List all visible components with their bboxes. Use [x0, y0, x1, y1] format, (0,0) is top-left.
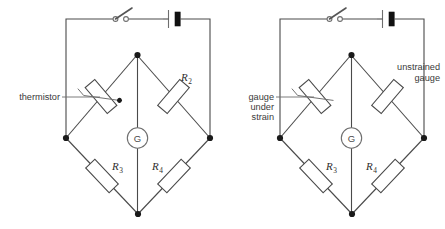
- battery-short-plate: [175, 12, 180, 26]
- gauge-under-strain-annotation-line2: under: [251, 102, 275, 112]
- resistor-r4-body-2: [372, 159, 405, 192]
- switch-terminal-right: [124, 17, 129, 22]
- resistor-r4-2: [372, 159, 405, 192]
- switch-terminal-right-2: [338, 17, 343, 22]
- resistor-r4-label-2: R4: [365, 160, 377, 175]
- thermistor-annotation: thermistor: [19, 92, 60, 102]
- resistor-r4-body: [158, 159, 191, 192]
- gauge-under-strain-annotation-line1: gauge: [248, 92, 274, 102]
- node-left-2: [277, 135, 283, 141]
- gauge-under-strain: [292, 73, 335, 117]
- unstrained-gauge-annotation-line1: unstrained: [397, 62, 440, 72]
- galvanometer-label-2: G: [348, 133, 355, 144]
- galvanometer-2: G: [341, 128, 361, 148]
- galvanometer-label: G: [134, 133, 141, 144]
- node-right: [207, 135, 213, 141]
- resistor-r4: [158, 159, 191, 192]
- node-left: [63, 135, 69, 141]
- circuit-diagram-svg: G R2 R3 R4 thermistor: [0, 0, 445, 229]
- thermistor-bridge-circuit: G R2 R3 R4 thermistor: [19, 8, 213, 217]
- circuit-figure: G R2 R3 R4 thermistor: [0, 0, 445, 229]
- supply-rail-left-wire-2: [280, 19, 327, 138]
- node-right-2: [421, 135, 427, 141]
- thermistor-terminal-dot: [116, 97, 123, 104]
- resistor-r3-label: R3: [111, 160, 123, 175]
- battery: [163, 10, 182, 28]
- supply-rail-left-wire: [66, 19, 113, 138]
- resistor-r4-label: R4: [151, 160, 163, 175]
- node-bottom: [135, 211, 141, 217]
- gauge-under-strain-annotation-line3: strain: [252, 112, 274, 122]
- battery-2: [377, 10, 396, 28]
- battery-short-plate-2: [389, 12, 394, 26]
- unstrained-gauge-annotation-line2: gauge: [414, 73, 440, 83]
- strain-gauge-bridge-circuit: G R3 R4 gauge under strain unstrai: [248, 8, 440, 217]
- resistor-r3-label-2: R3: [325, 160, 337, 175]
- node-bottom-2: [349, 211, 355, 217]
- node-top: [134, 52, 140, 58]
- node-top-2: [348, 52, 354, 58]
- galvanometer: G: [127, 128, 147, 148]
- thermistor: [78, 71, 123, 117]
